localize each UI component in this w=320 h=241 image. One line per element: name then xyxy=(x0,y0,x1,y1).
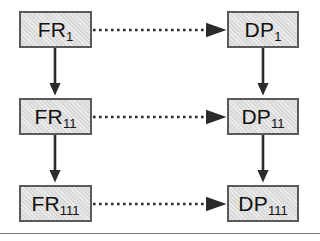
node-dp-111-subscript: 111 xyxy=(268,203,288,218)
node-fr-11-label: FR11 xyxy=(35,106,77,127)
node-dp-111-label: DP111 xyxy=(238,193,287,214)
node-dp-11-subscript: 11 xyxy=(271,116,285,131)
decomposition-diagram: FR1 DP1 FR11 DP11 FR111 DP111 xyxy=(0,0,320,241)
node-fr-111-base: FR xyxy=(31,192,59,215)
node-dp-1[interactable]: DP1 xyxy=(227,11,299,48)
mapping-arrow-group xyxy=(93,30,207,204)
node-fr-1[interactable]: FR1 xyxy=(19,11,92,48)
node-fr-111[interactable]: FR111 xyxy=(19,185,92,222)
node-dp-11[interactable]: DP11 xyxy=(227,98,299,135)
node-dp-1-base: DP xyxy=(245,18,275,41)
node-fr-1-subscript: 1 xyxy=(66,29,73,44)
node-fr-111-label: FR111 xyxy=(31,193,79,214)
node-fr-11-subscript: 11 xyxy=(63,116,77,131)
node-fr-1-base: FR xyxy=(38,18,66,41)
node-fr-111-subscript: 111 xyxy=(60,203,80,218)
baseline-rule xyxy=(0,233,320,234)
node-dp-1-subscript: 1 xyxy=(274,29,281,44)
node-dp-1-label: DP1 xyxy=(245,19,282,40)
node-fr-11[interactable]: FR11 xyxy=(19,98,92,135)
node-dp-111-base: DP xyxy=(238,192,268,215)
node-fr-11-base: FR xyxy=(35,105,63,128)
node-dp-11-label: DP11 xyxy=(241,106,284,127)
node-dp-11-base: DP xyxy=(241,105,271,128)
node-dp-111[interactable]: DP111 xyxy=(227,185,299,222)
node-fr-1-label: FR1 xyxy=(38,19,74,40)
